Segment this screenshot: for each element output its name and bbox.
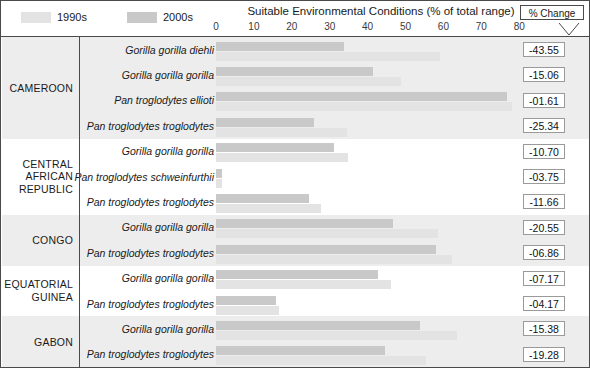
pct-change-value: -06.86 [523, 245, 565, 260]
pct-change-value: -10.70 [523, 144, 565, 159]
pct-change-value: -01.61 [523, 93, 565, 108]
chart-figure: 1990s 2000s Suitable Environmental Condi… [0, 0, 590, 368]
pct-change-value: -15.38 [523, 321, 565, 336]
bar-2000s [216, 143, 334, 152]
bar-1990s [216, 255, 452, 264]
bar-1990s [216, 128, 347, 137]
bar-1990s [216, 153, 348, 162]
bar-1990s [216, 331, 457, 340]
bar-2000s [216, 219, 393, 228]
pct-change-value: -43.55 [523, 42, 565, 57]
pct-change-value: -11.66 [523, 194, 565, 209]
bar-2000s [216, 270, 378, 279]
bar-2000s [216, 194, 309, 203]
pct-change-value: -15.06 [523, 67, 565, 82]
chart-header-band: 1990s 2000s Suitable Environmental Condi… [1, 1, 589, 37]
x-tick-30: 30 [324, 21, 335, 32]
country-label-cell: CAMEROON [2, 37, 78, 139]
country-name: CENTRAL AFRICAN REPUBLIC [2, 158, 73, 196]
country-label-cell: EQUATORIAL GUINEA [2, 266, 78, 317]
pct-change-value: -19.28 [523, 347, 565, 362]
bar-2000s [216, 296, 276, 305]
x-axis-ticks: 01020304050607080 [1, 21, 589, 37]
country-name: CONGO [32, 234, 73, 247]
bar-2000s [216, 245, 436, 254]
bar-1990s [216, 280, 391, 289]
pct-change-header: % Change [520, 5, 584, 20]
country-name: CAMEROON [10, 82, 73, 95]
country-column: CAMEROONCENTRAL AFRICAN REPUBLICCONGOEQU… [2, 37, 80, 367]
x-tick-80: 80 [514, 21, 525, 32]
x-tick-0: 0 [213, 21, 219, 32]
pct-change-value: -25.34 [523, 118, 565, 133]
x-tick-50: 50 [400, 21, 411, 32]
bar-2000s [216, 67, 373, 76]
bar-1990s [216, 229, 438, 238]
pct-change-value: -20.55 [523, 220, 565, 235]
x-tick-10: 10 [248, 21, 259, 32]
bar-2000s [216, 169, 222, 178]
bar-1990s [216, 204, 321, 213]
pct-change-value: -07.17 [523, 271, 565, 286]
bar-1990s [216, 356, 426, 365]
country-label-cell: CONGO [2, 215, 78, 266]
bar-2000s [216, 42, 344, 51]
pct-change-value: -04.17 [523, 296, 565, 311]
chart-axis-title: Suitable Environmental Conditions (% of … [237, 5, 525, 17]
bar-1990s [216, 179, 222, 188]
bar-2000s [216, 118, 314, 127]
country-name: EQUATORIAL GUINEA [2, 278, 73, 303]
country-label-cell: GABON [2, 316, 78, 367]
bar-1990s [216, 102, 512, 111]
bar-2000s [216, 321, 420, 330]
country-label-cell: CENTRAL AFRICAN REPUBLIC [2, 139, 78, 215]
bar-1990s [216, 306, 279, 315]
x-tick-40: 40 [362, 21, 373, 32]
bar-2000s [216, 346, 385, 355]
bar-1990s [216, 77, 401, 86]
country-name: GABON [34, 336, 73, 349]
pct-change-caret-icon [558, 23, 580, 36]
bar-1990s [216, 52, 440, 61]
x-tick-70: 70 [476, 21, 487, 32]
x-tick-60: 60 [438, 21, 449, 32]
pct-change-value: -03.75 [523, 169, 565, 184]
x-tick-20: 20 [286, 21, 297, 32]
bar-2000s [216, 92, 507, 101]
